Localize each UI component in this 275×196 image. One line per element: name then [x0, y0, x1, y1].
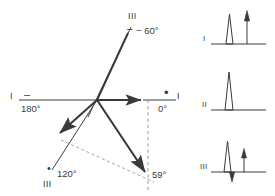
- vector-60-label: III: [128, 12, 137, 21]
- spectrum-panel-1: [211, 11, 266, 45]
- vector-60-angle: − 60°: [136, 26, 159, 36]
- vector-diagram-group: [19, 27, 176, 191]
- axis-left-label: I: [10, 92, 13, 101]
- vector-120-guide: [52, 100, 97, 170]
- axis-right-angle: 0°: [158, 104, 167, 114]
- vector-59-arrow: [97, 100, 145, 172]
- spectrum-panel-1-label: I: [203, 35, 206, 43]
- panel-3-negative-peak: [230, 172, 235, 182]
- panel-2-peak-1: [225, 72, 233, 110]
- panel-1-peak-2-head: [244, 11, 249, 22]
- spectrum-panel-3-label: III: [200, 163, 208, 171]
- minus-marker-180: –: [24, 89, 30, 100]
- dot-marker-0: •: [164, 86, 169, 99]
- vector-120-angle: 120°: [57, 169, 77, 179]
- dot-marker-120: •: [47, 163, 51, 174]
- panel-3-peak-2-head: [242, 149, 247, 159]
- spectrum-panel-2: [211, 72, 266, 110]
- panel-1-peak-1: [226, 14, 233, 44]
- panel-3-peak-1: [224, 141, 231, 172]
- minus-marker-60: –: [127, 24, 133, 34]
- spectrum-panel-3: [211, 141, 266, 182]
- spectrum-panel-2-label: II: [202, 101, 207, 109]
- axis-left-angle: 180°: [21, 104, 41, 114]
- axis-right-label: I: [177, 92, 180, 101]
- vector-59-angle: 59°: [152, 170, 166, 180]
- vector-60-arrow: [97, 33, 128, 100]
- vector-120-label: III: [43, 180, 52, 189]
